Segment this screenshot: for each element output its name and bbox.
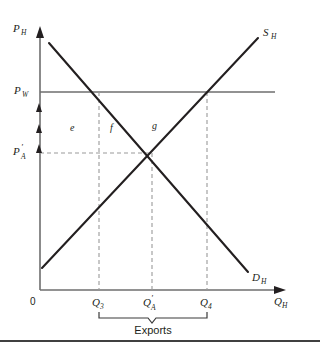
world-price-sub: W	[22, 90, 29, 99]
world-price-tick-label: P W	[13, 84, 29, 99]
qa-prime-tick-label: Q ′ A	[143, 293, 156, 312]
region-label-e: e	[70, 122, 75, 133]
autarky-price-sub: A	[20, 152, 26, 161]
supply-label-main: S	[263, 26, 269, 38]
y-axis-title-main: P	[12, 22, 20, 34]
origin-label: 0	[30, 296, 36, 307]
supply-label-sub: H	[270, 32, 277, 41]
x-axis-title-main: Q	[274, 295, 282, 307]
demand-label-main: D	[251, 271, 260, 283]
exports-bracket	[99, 312, 207, 323]
y-axis-title-sub: H	[20, 28, 27, 37]
supply-curve-label: S H	[263, 26, 277, 41]
demand-curve	[49, 43, 248, 272]
figure-canvas: P H Q H 0 P W P ′ A Q 3 Q ′ A	[0, 0, 320, 349]
q3-tick-label: Q 3	[92, 296, 104, 311]
world-price-main: P	[13, 84, 21, 96]
y-axis	[36, 26, 44, 290]
x-axis-title-sub: H	[281, 301, 288, 310]
q3-main: Q	[92, 296, 100, 308]
qa-prime-sub: A	[150, 303, 156, 312]
x-axis	[40, 286, 286, 294]
q4-tick-label: Q 4	[200, 296, 212, 311]
autarky-price-main: P	[12, 145, 20, 157]
exports-bracket-label: Exports	[134, 324, 172, 336]
qa-prime-prime: ′	[151, 293, 154, 303]
price-gap-arrows	[36, 103, 42, 153]
autarky-price-tick-label: P ′ A	[12, 142, 26, 161]
supply-demand-figure: P H Q H 0 P W P ′ A Q 3 Q ′ A	[0, 0, 320, 349]
demand-label-sub: H	[260, 277, 267, 286]
q4-main: Q	[200, 296, 208, 308]
x-axis-title: Q H	[274, 295, 288, 310]
autarky-price-prime: ′	[21, 142, 24, 152]
qa-prime-main: Q	[143, 296, 151, 308]
q4-sub: 4	[208, 302, 212, 311]
demand-curve-label: D H	[251, 271, 267, 286]
q3-sub: 3	[99, 302, 104, 311]
region-label-g: g	[152, 120, 157, 131]
region-label-f: f	[110, 122, 114, 133]
y-axis-title: P H	[12, 22, 27, 37]
